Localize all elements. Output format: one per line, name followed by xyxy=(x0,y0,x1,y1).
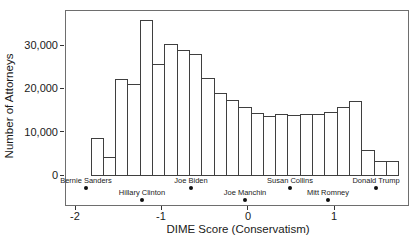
x-tick-label: -2 xyxy=(70,210,80,222)
histogram-bar xyxy=(164,44,178,176)
politician-label: Mitt Romney xyxy=(307,189,349,197)
y-tick-label: 10,000 xyxy=(0,126,58,138)
politician-dot xyxy=(326,198,330,202)
x-tick-label: -1 xyxy=(156,210,166,222)
politician-dot xyxy=(84,186,88,190)
histogram-figure: Number of Attorneys Bernie SandersHillar… xyxy=(0,0,417,246)
histogram-bar xyxy=(201,78,215,176)
politician-dot xyxy=(374,186,378,190)
politician-label: Donald Trump xyxy=(352,177,399,185)
politician-dot xyxy=(140,198,144,202)
y-tick-mark xyxy=(60,131,64,132)
x-tick-label: 0 xyxy=(245,210,251,222)
politician-dot xyxy=(243,198,247,202)
histogram-bar xyxy=(361,150,375,176)
y-tick-label: 20,000 xyxy=(0,82,58,94)
y-tick-mark xyxy=(60,175,64,176)
y-axis-title: Number of Attorneys xyxy=(3,54,15,159)
politician-label: Bernie Sanders xyxy=(60,177,112,185)
politician-dot xyxy=(189,186,193,190)
politician-label: Susan Collins xyxy=(267,177,313,185)
histogram-bar xyxy=(287,115,301,176)
histogram-bar xyxy=(238,107,252,176)
y-tick-mark xyxy=(60,45,64,46)
politician-label: Joe Manchin xyxy=(224,189,267,197)
histogram-bar xyxy=(127,84,141,176)
y-tick-label: 0 xyxy=(0,169,58,181)
politician-dot xyxy=(288,186,292,190)
politician-label: Hillary Clinton xyxy=(119,189,165,197)
x-tick-label: 1 xyxy=(331,210,337,222)
y-tick-mark xyxy=(60,88,64,89)
histogram-bar xyxy=(324,112,338,176)
politician-label: Joe Biden xyxy=(174,177,207,185)
histogram-bar xyxy=(386,161,399,176)
y-tick-label: 30,000 xyxy=(0,39,58,51)
x-axis-title: DIME Score (Conservatism) xyxy=(166,223,309,235)
